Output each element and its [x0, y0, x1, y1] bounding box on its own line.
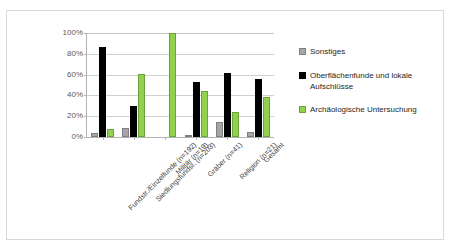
gray-swatch-icon [299, 48, 306, 55]
bar-group [181, 33, 212, 137]
bar[interactable] [91, 133, 98, 137]
x-axis-label-cell: Gräber (n=41) [180, 139, 211, 209]
x-axis-label-cell: Militär (n=19) [148, 139, 179, 209]
bar[interactable] [232, 112, 239, 137]
y-axis-tick-label: 60% [49, 71, 83, 79]
chart-frame: 100%80%60%40%20%0% Fundstr./Einzelfunde … [6, 10, 444, 240]
x-axis-label-cell: Fundstr./Einzelfunde (n=192) [86, 139, 117, 209]
bar-group [87, 33, 118, 137]
y-axis-tick-label: 40% [49, 91, 83, 99]
x-axis-label-cell: Gesamt [242, 139, 273, 209]
bar-group [118, 33, 149, 137]
bar[interactable] [169, 33, 176, 137]
x-axis-label-cell: Siedlungsfundst. (n=203) [117, 139, 148, 209]
black-swatch-icon [299, 72, 306, 79]
bar[interactable] [107, 129, 114, 137]
y-axis-tick-label: 20% [49, 112, 83, 120]
x-axis-label-cell: Religion (n=21) [211, 139, 242, 209]
x-axis-tick-label: Gesamt [263, 141, 286, 164]
bar[interactable] [255, 79, 262, 137]
y-axis-tick-label: 80% [49, 50, 83, 58]
chart-plot-wrapper: 100%80%60%40%20%0% Fundstr./Einzelfunde … [7, 11, 443, 239]
legend-item[interactable]: Sonstiges [299, 47, 439, 58]
y-axis-tick-mark [84, 137, 87, 138]
bar[interactable] [99, 47, 106, 137]
bar[interactable] [193, 82, 200, 137]
legend-item[interactable]: Oberflächenfunde und lokale Aufschlüsse [299, 71, 439, 93]
green-swatch-icon [299, 106, 306, 113]
bar[interactable] [216, 122, 223, 137]
bar[interactable] [247, 132, 254, 137]
x-axis-tick-labels: Fundstr./Einzelfunde (n=192)Siedlungsfun… [86, 139, 273, 209]
bar[interactable] [263, 97, 270, 137]
y-axis-tick-label: 0% [49, 133, 83, 141]
bar[interactable] [130, 106, 137, 137]
bar[interactable] [138, 74, 145, 137]
bar-group [149, 33, 180, 137]
legend-item-label: Sonstiges [310, 47, 345, 58]
bar-group [212, 33, 243, 137]
bar-group [243, 33, 274, 137]
bar[interactable] [224, 73, 231, 137]
legend-item-label: Archäologische Untersuchung [310, 105, 417, 116]
legend-item[interactable]: Archäologische Untersuchung [299, 105, 439, 116]
bar-groups [87, 33, 274, 137]
legend-item-label: Oberflächenfunde und lokale Aufschlüsse [310, 71, 439, 93]
plot-area [86, 33, 274, 138]
y-axis-tick-label: 100% [49, 29, 83, 37]
y-axis-tick-labels: 100%80%60%40%20%0% [49, 33, 83, 137]
chart-legend: SonstigesOberflächenfunde und lokale Auf… [299, 47, 439, 129]
bar[interactable] [185, 135, 192, 137]
bar[interactable] [122, 128, 129, 137]
bar[interactable] [201, 91, 208, 137]
